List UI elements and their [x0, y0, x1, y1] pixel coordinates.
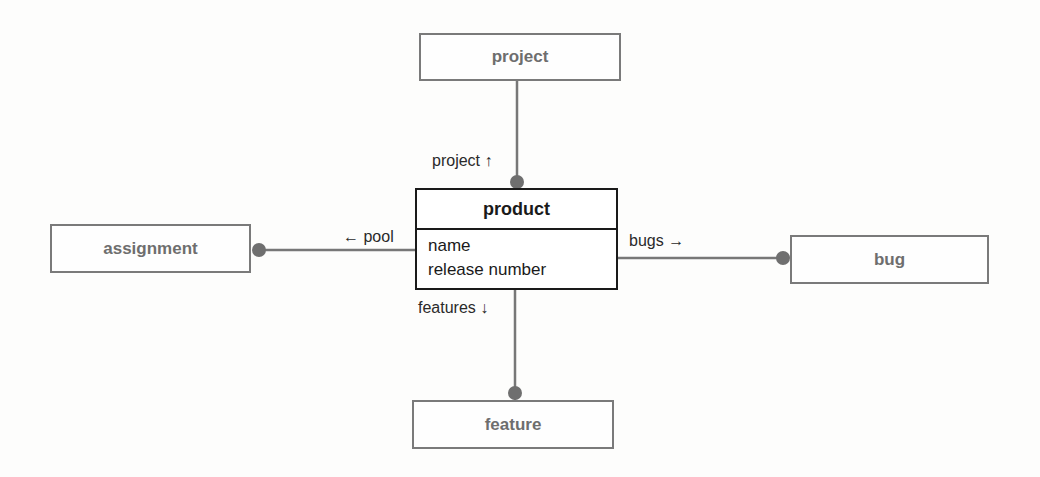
- class-feature-label: feature: [485, 415, 542, 435]
- class-project[interactable]: project: [419, 33, 621, 81]
- class-product[interactable]: product name release number: [415, 188, 618, 290]
- attribute-release-number: release number: [428, 258, 616, 282]
- attribute-name: name: [428, 234, 616, 258]
- assignment-endpoint-dot: [252, 243, 266, 257]
- class-product-attributes: name release number: [417, 230, 616, 282]
- project-endpoint-dot: [510, 175, 524, 189]
- bug-endpoint-dot: [776, 251, 790, 265]
- role-label-features: features ↓: [418, 299, 488, 317]
- class-project-label: project: [492, 47, 549, 67]
- class-assignment[interactable]: assignment: [50, 224, 251, 273]
- class-product-name: product: [483, 199, 550, 220]
- role-label-bugs: bugs →: [629, 232, 684, 250]
- class-bug[interactable]: bug: [790, 235, 989, 284]
- class-product-header: product: [417, 190, 616, 230]
- class-feature[interactable]: feature: [412, 400, 614, 449]
- role-label-project: project ↑: [432, 152, 492, 170]
- class-bug-label: bug: [874, 250, 905, 270]
- class-assignment-label: assignment: [103, 239, 197, 259]
- feature-endpoint-dot: [508, 386, 522, 400]
- role-label-pool: ← pool: [343, 228, 394, 246]
